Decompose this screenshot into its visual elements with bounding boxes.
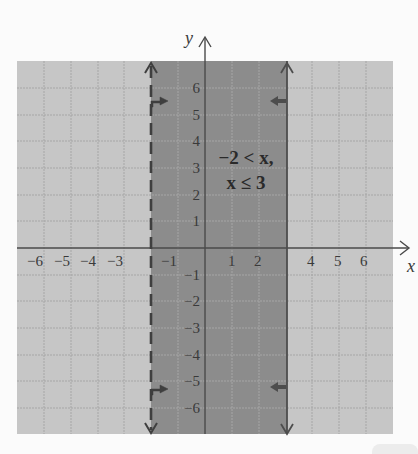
- svg-text:−1: −1: [184, 267, 200, 283]
- svg-text:6: 6: [193, 80, 201, 96]
- svg-text:−5: −5: [184, 373, 200, 389]
- svg-text:−5: −5: [54, 253, 70, 269]
- x-axis-label: x: [406, 256, 415, 276]
- svg-text:6: 6: [360, 253, 368, 269]
- svg-text:−2: −2: [184, 293, 200, 309]
- svg-text:1: 1: [228, 253, 236, 269]
- svg-text:−6: −6: [184, 400, 200, 416]
- svg-text:4: 4: [193, 133, 201, 149]
- svg-text:3: 3: [193, 160, 201, 176]
- page-corner-tab: [372, 444, 418, 454]
- inequality-annotation-line1: −2 < x,: [219, 147, 274, 168]
- svg-text:4: 4: [307, 253, 315, 269]
- svg-text:2: 2: [254, 253, 262, 269]
- svg-text:1: 1: [193, 213, 201, 229]
- svg-text:−4: −4: [184, 347, 200, 363]
- svg-text:2: 2: [193, 187, 201, 203]
- svg-text:−3: −3: [107, 253, 123, 269]
- svg-text:5: 5: [334, 253, 342, 269]
- y-axis-label: y: [183, 28, 193, 48]
- svg-text:−1: −1: [161, 253, 177, 269]
- inequality-annotation-line2: x ≤ 3: [227, 172, 266, 193]
- svg-text:−4: −4: [80, 253, 96, 269]
- svg-text:−6: −6: [27, 253, 43, 269]
- svg-text:−3: −3: [184, 320, 200, 336]
- svg-text:5: 5: [193, 107, 201, 123]
